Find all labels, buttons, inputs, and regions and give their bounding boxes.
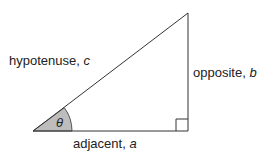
triangle <box>33 13 188 131</box>
hypotenuse-text: hypotenuse, <box>9 53 83 68</box>
adjacent-text: adjacent, <box>73 136 129 151</box>
hypotenuse-var: c <box>83 53 90 68</box>
hypotenuse-label: hypotenuse, c <box>9 54 90 67</box>
right-angle-marker <box>176 119 188 131</box>
adjacent-label: adjacent, a <box>73 137 137 150</box>
opposite-var: b <box>249 65 256 80</box>
angle-theta-wedge <box>33 108 72 131</box>
angle-theta-label: θ <box>56 116 63 129</box>
opposite-label: opposite, b <box>193 66 257 79</box>
opposite-text: opposite, <box>193 65 249 80</box>
adjacent-var: a <box>129 136 136 151</box>
